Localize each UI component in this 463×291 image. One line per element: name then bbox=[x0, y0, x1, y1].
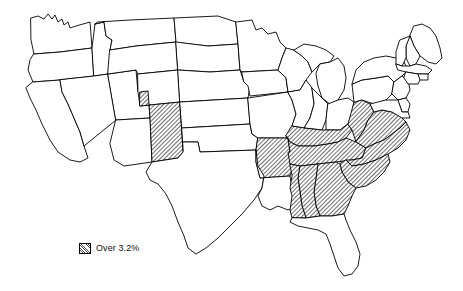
legend-label: Over 3.2% bbox=[96, 243, 139, 254]
state-minnesota bbox=[236, 20, 286, 72]
map-legend: Over 3.2% bbox=[79, 243, 139, 254]
state-washington bbox=[31, 14, 92, 54]
us-choropleth-map: Over 3.2% bbox=[0, 0, 463, 291]
state-iowa bbox=[242, 70, 288, 96]
state-connecticut bbox=[404, 72, 420, 84]
state-florida bbox=[290, 214, 360, 276]
state-kansas bbox=[180, 98, 250, 128]
state-north-dakota bbox=[174, 16, 238, 46]
state-arizona bbox=[110, 118, 152, 166]
map-svg bbox=[0, 0, 463, 291]
legend-swatch-icon bbox=[79, 243, 91, 254]
state-south-dakota bbox=[176, 42, 240, 72]
state-nebraska bbox=[178, 70, 250, 102]
states-layer bbox=[26, 14, 442, 276]
